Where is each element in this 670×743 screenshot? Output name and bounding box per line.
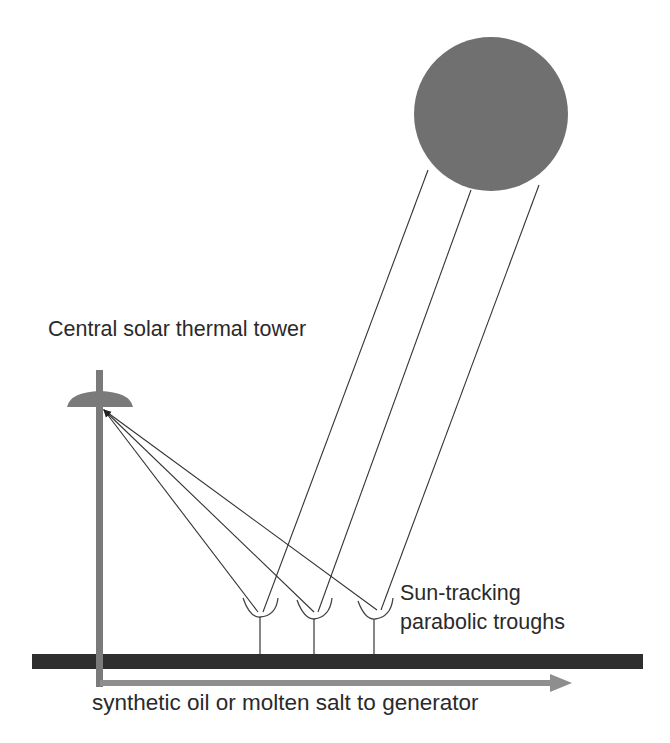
incoming-ray-1 — [263, 170, 428, 612]
incoming-rays — [263, 170, 539, 612]
reflected-rays — [104, 410, 377, 612]
trough-2 — [297, 598, 332, 654]
diagram-canvas — [0, 0, 670, 743]
reflected-ray-3 — [104, 410, 377, 610]
flow-label: synthetic oil or molten salt to generato… — [92, 689, 478, 716]
sun-icon — [414, 37, 568, 191]
incoming-ray-3 — [381, 185, 539, 610]
solar-thermal-diagram: Central solar thermal tower Sun-tracking… — [0, 0, 670, 743]
tower-label: Central solar thermal tower — [48, 317, 306, 343]
tower-receiver-icon — [67, 391, 133, 407]
troughs-label: Sun-tracking parabolic troughs — [400, 579, 565, 637]
troughs-label-line2: parabolic troughs — [400, 608, 565, 637]
reflected-ray-2 — [104, 410, 314, 612]
incoming-ray-2 — [318, 190, 471, 612]
tower-pole — [96, 370, 103, 687]
flow-arrow-head-icon — [550, 674, 572, 692]
flow-arrow-shaft — [100, 680, 552, 686]
trough-3 — [358, 598, 393, 654]
trough-1 — [243, 598, 278, 654]
troughs-label-line1: Sun-tracking — [400, 579, 565, 608]
ground-bar — [32, 654, 643, 669]
parabolic-trough-icon — [243, 598, 278, 617]
reflected-ray-1 — [104, 410, 258, 612]
